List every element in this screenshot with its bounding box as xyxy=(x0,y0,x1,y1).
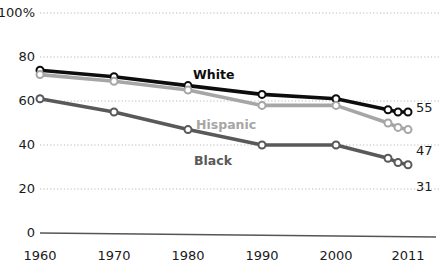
data-point-marker xyxy=(37,95,44,102)
data-point-marker xyxy=(259,142,266,149)
y-axis-tick-40: 40 xyxy=(18,138,35,151)
data-point-marker xyxy=(333,142,340,149)
x-axis-tick-1960: 1960 xyxy=(10,249,70,262)
data-point-marker xyxy=(37,71,44,78)
x-axis-tick-1980: 1980 xyxy=(158,249,218,262)
chart-container: 020406080100% 196019701980199020002011 W… xyxy=(0,0,441,277)
data-point-marker xyxy=(259,102,266,109)
data-point-marker xyxy=(185,87,192,94)
x-axis-tick-2000: 2000 xyxy=(306,249,366,262)
data-point-marker xyxy=(111,109,118,116)
series-label-black: Black xyxy=(194,155,232,168)
data-point-marker xyxy=(405,109,412,116)
data-point-marker xyxy=(259,91,266,98)
x-axis-baseline xyxy=(40,233,436,237)
data-point-marker xyxy=(111,78,118,85)
data-point-marker xyxy=(185,126,192,133)
y-axis-tick-60: 60 xyxy=(18,94,35,107)
data-point-marker xyxy=(405,126,412,133)
series-label-hispanic: Hispanic xyxy=(196,119,256,132)
y-axis-tick-20: 20 xyxy=(18,182,35,195)
data-point-marker xyxy=(395,109,402,116)
y-axis-tick-100: 100% xyxy=(0,6,35,19)
series-label-white: White xyxy=(193,69,234,82)
end-value-label-black: 31 xyxy=(416,180,433,193)
data-point-marker xyxy=(405,161,412,168)
x-axis-tick-1990: 1990 xyxy=(232,249,292,262)
data-point-marker xyxy=(385,120,392,127)
y-axis-tick-0: 0 xyxy=(27,226,35,239)
x-axis-tick-1970: 1970 xyxy=(84,249,144,262)
data-point-marker xyxy=(333,102,340,109)
end-value-label-hispanic: 47 xyxy=(416,144,433,157)
y-axis-tick-80: 80 xyxy=(18,50,35,63)
x-axis-tick-2011: 2011 xyxy=(378,249,438,262)
data-point-marker xyxy=(385,106,392,113)
data-point-marker xyxy=(395,159,402,166)
line-chart-plot xyxy=(0,0,441,277)
end-value-label-white: 55 xyxy=(416,101,433,114)
data-point-marker xyxy=(385,155,392,162)
data-point-marker xyxy=(395,124,402,131)
axis-baseline-line xyxy=(40,233,436,237)
